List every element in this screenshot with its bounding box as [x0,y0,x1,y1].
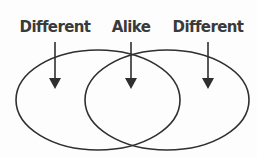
label-different-right: Different [173,18,244,36]
arrow-down-icon-right [202,42,214,89]
right-ellipse [85,50,249,150]
venn-svg: Different Alike Different [0,0,257,157]
venn-diagram: Different Alike Different [0,0,257,157]
left-ellipse [16,50,180,150]
label-different-left: Different [20,18,91,36]
arrow-down-icon-left [49,42,61,89]
label-alike: Alike [112,18,151,36]
arrow-down-icon-center [125,42,137,89]
